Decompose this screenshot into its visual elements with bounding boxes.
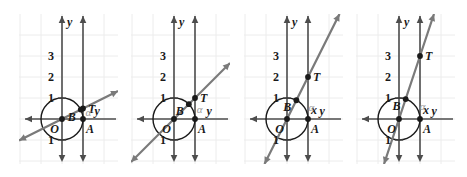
- label-alpha: α: [197, 103, 203, 115]
- label-b: B: [392, 99, 401, 113]
- label-alpha: α: [86, 106, 92, 118]
- label-y-axis-top: y: [177, 15, 185, 29]
- label-a: A: [310, 122, 319, 136]
- panel-plot-3: 3211OATByyxα: [244, 14, 343, 164]
- label-y-axis: y: [205, 104, 213, 118]
- grid: [19, 14, 118, 164]
- figure-strip: 3211OATByyα3211OATByyα3211OATByyxα3211OA…: [0, 0, 467, 177]
- y-tick-label-1: 1: [48, 91, 54, 105]
- label-origin: O: [275, 122, 284, 136]
- y-tick-label-3: 3: [160, 49, 166, 63]
- label-y-axis-top: y: [65, 15, 73, 29]
- y-tick-label-2: 2: [273, 70, 279, 84]
- point-t: [417, 53, 423, 59]
- point-origin: [396, 116, 402, 122]
- point-origin: [59, 116, 65, 122]
- point-b: [78, 107, 84, 113]
- panel-3: 3211OATByyxα: [244, 14, 343, 164]
- y-tick-label-3: 3: [273, 49, 279, 63]
- y-tick-label-1: 1: [385, 91, 391, 105]
- label-y-axis-top: y: [290, 15, 298, 29]
- label-alpha: α: [420, 100, 426, 112]
- point-b: [403, 96, 409, 102]
- label-origin: O: [162, 122, 171, 136]
- y-tick-label-2: 2: [385, 70, 391, 84]
- point-b: [186, 101, 192, 107]
- label-t: T: [313, 70, 321, 84]
- label-y-axis: y: [318, 104, 326, 118]
- label-y-axis: y: [93, 104, 101, 118]
- panel-plot-1: 3211OATByyα: [19, 14, 118, 164]
- label-a: A: [85, 122, 94, 136]
- label-y-axis-top: y: [402, 15, 410, 29]
- label-b: B: [67, 110, 76, 124]
- grid: [131, 14, 230, 164]
- label-alpha: α: [308, 101, 314, 113]
- y-tick-label-1: 1: [273, 91, 279, 105]
- panel-plot-4: 3211OATByyxα: [356, 14, 455, 164]
- grid: [356, 14, 455, 164]
- label-a: A: [197, 122, 206, 136]
- label-origin: O: [50, 122, 59, 136]
- y-tick-label-2: 2: [48, 70, 54, 84]
- panel-4: 3211OATByyxα: [356, 14, 455, 164]
- label-b: B: [175, 104, 184, 118]
- y-tick-label-2: 2: [160, 70, 166, 84]
- label-t: T: [425, 49, 433, 63]
- y-tick-label-3: 3: [385, 49, 391, 63]
- label-y-axis: y: [430, 104, 438, 118]
- label-b: B: [282, 100, 291, 114]
- y-tick-label-3: 3: [48, 49, 54, 63]
- point-t: [192, 95, 198, 101]
- panel-2: 3211OATByyα: [131, 14, 230, 164]
- point-t: [305, 74, 311, 80]
- point-b: [293, 97, 299, 103]
- panel-1: 3211OATByyα: [19, 14, 118, 164]
- point-origin: [284, 116, 290, 122]
- y-tick-label-1: 1: [160, 91, 166, 105]
- panel-plot-2: 3211OATByyα: [131, 14, 230, 164]
- label-origin: O: [387, 122, 396, 136]
- terminal-ray: [384, 14, 434, 164]
- label-a: A: [422, 122, 431, 136]
